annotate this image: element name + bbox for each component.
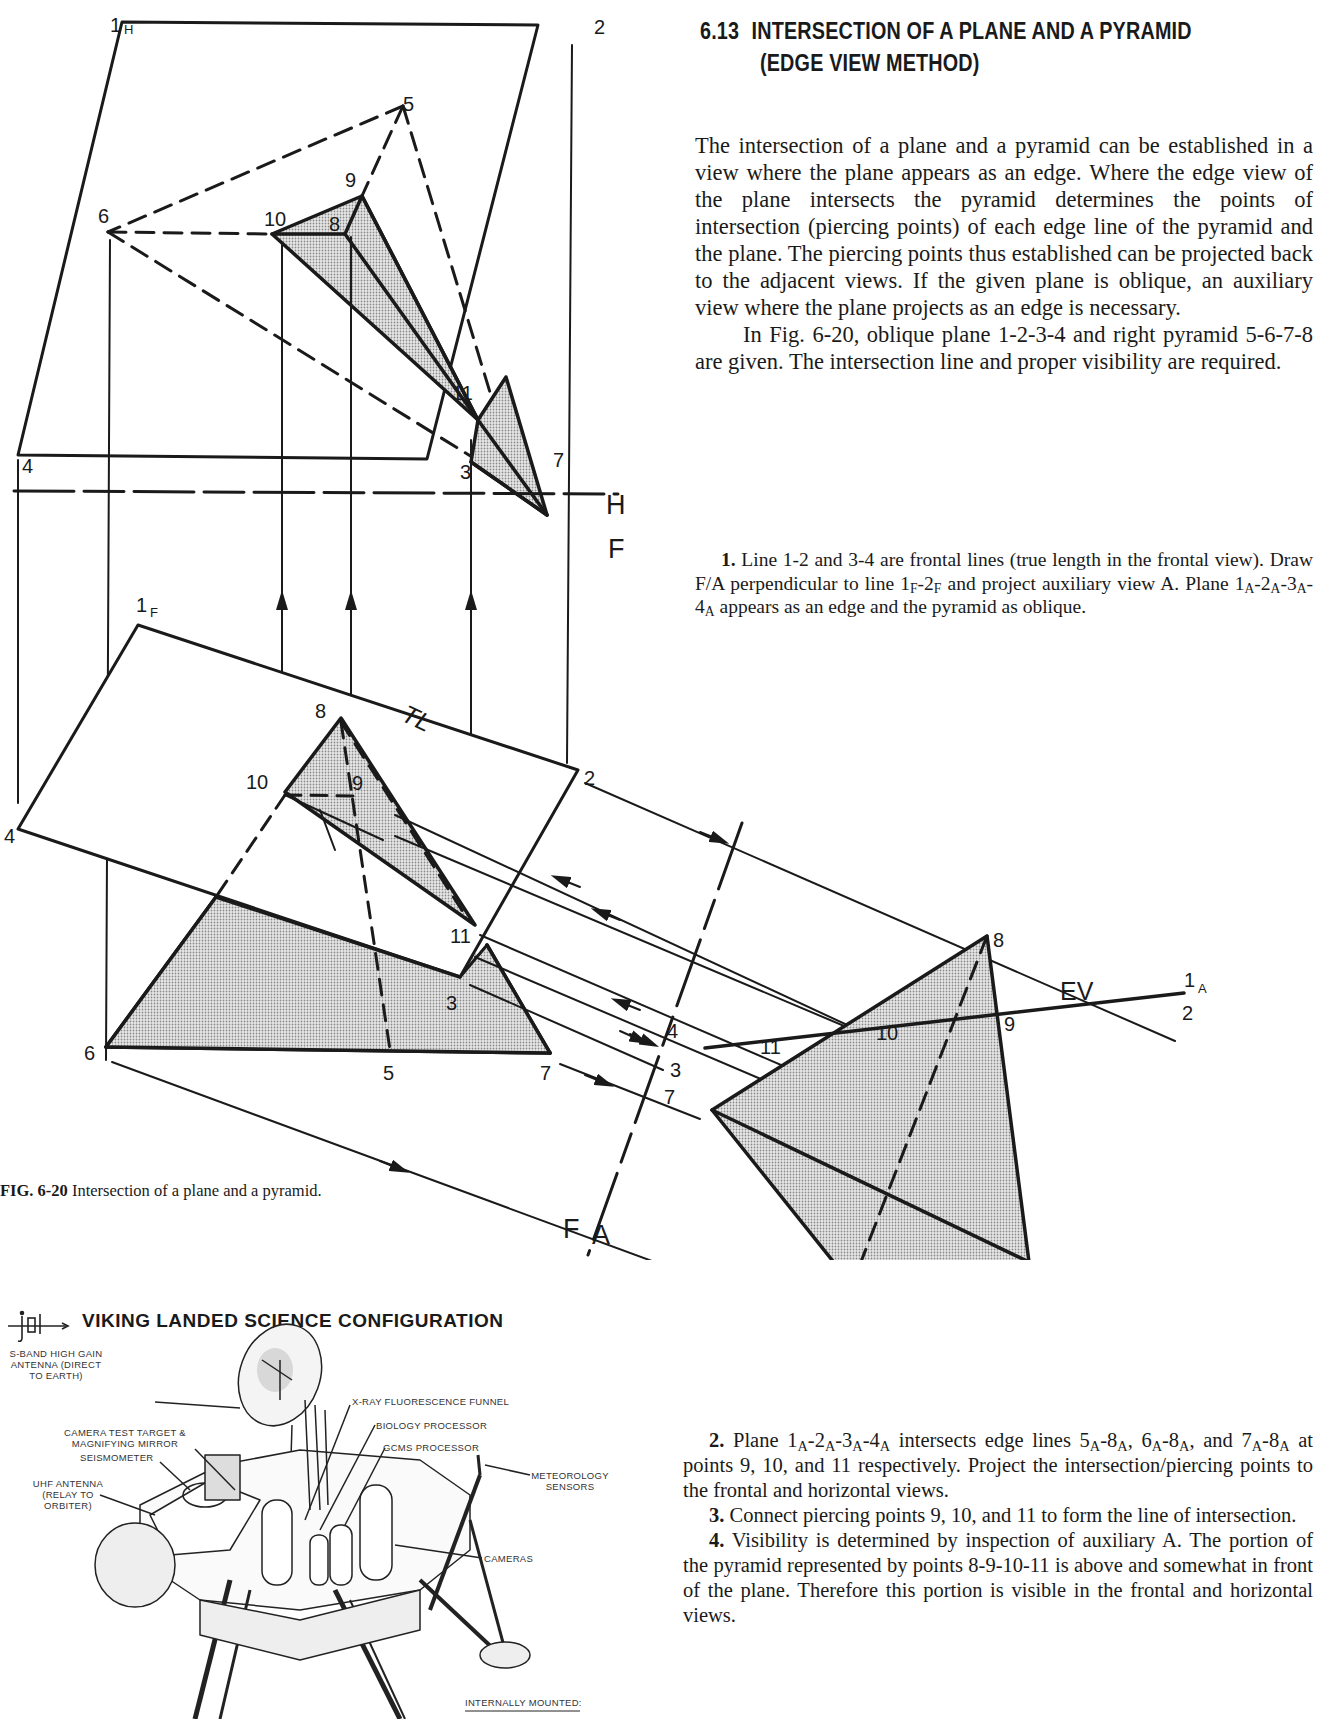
viking-illustration: VIKING LANDED SCIENCE CONFIGURATION — [0, 1290, 640, 1719]
subscript: A — [1252, 1438, 1262, 1454]
step-text: -8 — [1162, 1429, 1179, 1451]
subscript: A — [1090, 1438, 1100, 1454]
step-text: -2 — [808, 1429, 825, 1451]
step-text: -3 — [835, 1429, 852, 1451]
label-gcms-processor: GCMS PROCESSOR — [383, 1442, 479, 1453]
step-text: Visibility is determined by inspection o… — [683, 1529, 1313, 1626]
step-3: 3. Connect piercing points 9, 10, and 11… — [683, 1503, 1313, 1528]
fold-label-fa-a: A — [592, 1220, 610, 1250]
label-biology-processor: BIOLOGY PROCESSOR — [376, 1420, 487, 1431]
label-10h: 10 — [264, 208, 286, 230]
label-seismometer: SEISMOMETER — [80, 1452, 154, 1463]
label-s-band-antenna: S-BAND HIGH GAIN ANTENNA (DIRECT TO EART… — [6, 1348, 106, 1381]
label-9f: 9 — [352, 772, 363, 794]
label-11f: 11 — [450, 925, 471, 947]
subscript: A — [825, 1438, 835, 1454]
label-xray-funnel: X-RAY FLUORESCENCE FUNNEL — [352, 1396, 509, 1407]
fold-label-fa-f: F — [563, 1214, 580, 1244]
label-meteorology-sensors: METEOROLOGY SENSORS — [530, 1470, 610, 1492]
edge-view-label: EV — [1060, 977, 1094, 1005]
fold-label-f: F — [608, 534, 625, 564]
step-text: -4 — [863, 1429, 880, 1451]
label-1f: 1 — [136, 594, 147, 616]
subscript: A — [797, 1438, 807, 1454]
label-1a: 1 — [1184, 969, 1195, 991]
label-cameras: CAMERAS — [484, 1553, 533, 1564]
label-line: (RELAY TO — [28, 1489, 108, 1500]
label-internally-mounted: INTERNALLY MOUNTED: — [465, 1697, 582, 1708]
step-2: 2. Plane 1A-2A-3A-4A intersects edge lin… — [683, 1428, 1313, 1503]
label-4f: 4 — [4, 825, 15, 847]
figure-6-20-diagram: 1 H 2 3 4 5 6 7 8 9 10 11 H F 1 F 2 3 4 … — [0, 0, 1324, 1260]
label-camera-test-target: CAMERA TEST TARGET & MAGNIFYING MIRROR — [55, 1427, 195, 1449]
steps-2-4: 2. Plane 1A-2A-3A-4A intersects edge lin… — [683, 1428, 1313, 1628]
label-5h: 5 — [403, 93, 414, 115]
step-number: 3. — [709, 1504, 724, 1526]
label-8f: 8 — [315, 700, 326, 722]
label-1a-sub: A — [1198, 981, 1207, 996]
subscript: A — [1117, 1438, 1127, 1454]
fold-label-h: H — [606, 490, 626, 520]
step-4: 4. Visibility is determined by inspectio… — [683, 1528, 1313, 1628]
step-text: Connect piercing points 9, 10, and 11 to… — [724, 1504, 1296, 1526]
auxiliary-view — [705, 936, 1184, 1260]
subscript: A — [880, 1438, 890, 1454]
figure-caption-text: Intersection of a plane and a pyramid. — [72, 1181, 322, 1200]
step-text: -8 — [1262, 1429, 1279, 1451]
label-4h: 4 — [22, 455, 33, 477]
label-line: ANTENNA (DIRECT — [6, 1359, 106, 1370]
label-3h: 3 — [460, 461, 471, 483]
label-10f: 10 — [246, 771, 268, 793]
step-number: 4. — [709, 1529, 724, 1551]
step-text: -8 — [1100, 1429, 1117, 1451]
label-6f: 6 — [84, 1042, 95, 1064]
label-7a: 7 — [664, 1086, 675, 1108]
pyramid-hidden-edges-horizontal — [108, 106, 506, 457]
label-3a: 3 — [670, 1059, 681, 1081]
figure-caption: FIG. 6-20 Intersection of a plane and a … — [0, 1181, 322, 1201]
label-line: UHF ANTENNA — [28, 1478, 108, 1489]
label-1f-sub: F — [150, 605, 158, 620]
label-4a: 4 — [667, 1020, 678, 1042]
label-uhf-antenna: UHF ANTENNA (RELAY TO ORBITER) — [28, 1478, 108, 1511]
label-3f: 3 — [446, 992, 457, 1014]
label-2h: 2 — [594, 16, 605, 38]
label-line: CAMERA TEST TARGET & — [55, 1427, 195, 1438]
subscript: A — [1179, 1438, 1189, 1454]
label-line: ORBITER) — [28, 1500, 108, 1511]
step-text: intersects edge lines 5 — [890, 1429, 1090, 1451]
label-2f: 2 — [584, 767, 595, 789]
label-1h: 1 — [110, 14, 121, 36]
label-5f: 5 — [383, 1062, 394, 1084]
step-text: , and 7 — [1189, 1429, 1251, 1451]
label-line: TO EARTH) — [6, 1370, 106, 1381]
label-1h-sub: H — [124, 22, 133, 37]
label-6h: 6 — [98, 205, 109, 227]
label-2a: 2 — [1182, 1002, 1193, 1024]
label-7f: 7 — [540, 1062, 551, 1084]
label-11a: 11 — [760, 1036, 781, 1058]
frontal-view — [18, 625, 578, 1053]
label-9a: 9 — [1004, 1013, 1015, 1035]
label-9h: 9 — [345, 169, 356, 191]
label-10a: 10 — [876, 1022, 898, 1044]
label-8h: 8 — [329, 213, 340, 235]
label-line: MAGNIFYING MIRROR — [55, 1438, 195, 1449]
label-11h: 11 — [452, 382, 473, 404]
label-8a: 8 — [993, 929, 1004, 951]
figure-caption-label: FIG. 6-20 — [0, 1181, 68, 1200]
label-line: SENSORS — [530, 1481, 610, 1492]
step-number: 2. — [709, 1429, 724, 1451]
subscript: A — [852, 1438, 862, 1454]
visible-pyramid-portion-horizontal — [272, 196, 478, 420]
subscript: A — [1152, 1438, 1162, 1454]
subscript: A — [1279, 1438, 1289, 1454]
label-7h: 7 — [553, 449, 564, 471]
label-line: S-BAND HIGH GAIN — [6, 1348, 106, 1359]
step-text: , 6 — [1128, 1429, 1152, 1451]
step-text: Plane 1 — [724, 1429, 797, 1451]
label-line: METEOROLOGY — [530, 1470, 610, 1481]
